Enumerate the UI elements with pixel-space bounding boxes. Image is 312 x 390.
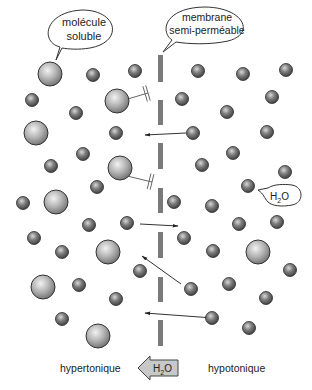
water-molecule [223,278,236,291]
water-molecule [284,264,297,277]
molecules [17,62,297,348]
water-molecule [196,159,209,172]
water-molecule [271,216,284,229]
passing-arrow [140,224,178,226]
membrane-callout: membrane semi-perméable [163,7,245,52]
water-molecule [91,181,104,194]
osmosis-diagram: molécule soluble membrane semi-perméable… [0,0,312,390]
water-molecule [77,148,90,161]
hypertonic-label: hypertonique [60,362,121,374]
water-molecule [243,322,256,335]
solute-callout: molécule soluble [48,10,112,60]
water-molecule [279,166,292,179]
water-molecule [207,245,220,258]
water-callout: H2O [258,184,301,206]
membrane-callout-line2: semi-perméable [169,24,244,36]
membrane-segment [158,232,163,258]
water-molecule [129,65,142,78]
membrane-segment [158,143,163,169]
membrane [158,55,163,346]
water-molecule [192,65,205,78]
water-molecule [233,218,246,231]
solute-molecule [246,240,270,264]
water-molecule [206,312,219,325]
water-molecule [110,127,123,140]
water-molecule [206,200,219,213]
water-molecule [28,232,41,245]
solute-callout-line1: molécule [62,16,106,28]
solute-molecule [38,62,62,86]
water-molecule [227,147,240,160]
solute-molecule [108,156,132,180]
water-molecule [73,279,86,292]
water-molecule [176,93,189,106]
solute-molecule [96,240,120,264]
solute-molecule [86,324,110,348]
passing-arrow [145,313,213,318]
water-molecule [261,126,274,139]
water-molecule [266,91,279,104]
membrane-segment [158,277,163,302]
water-molecule [110,293,123,306]
passing-arrow [145,133,186,135]
solute-molecule [44,190,68,214]
water-molecule [45,160,58,173]
water-molecule [187,127,200,140]
water-molecule [83,219,96,232]
water-flow-arrow: H2O [138,356,178,380]
water-molecule [121,217,134,230]
water-molecule [17,197,30,210]
membrane-segment [158,100,163,125]
solute-molecule [31,275,55,299]
water-molecule [70,107,83,120]
water-molecule [280,64,293,77]
water-molecule [178,232,191,245]
membrane-callout-line1: membrane [182,11,232,23]
water-molecule [237,68,250,81]
water-molecule [87,69,100,82]
water-molecule [168,196,181,209]
water-molecule [260,292,273,305]
membrane-segment [158,188,163,213]
membrane-segment [158,320,163,346]
water-molecule [185,283,198,296]
solute-molecule [105,89,129,113]
hypotonic-label: hypotonique [208,362,265,374]
solute-molecule [24,121,48,145]
water-molecule [221,106,234,119]
water-molecule [26,94,39,107]
water-molecule [134,265,147,278]
molecule-paths [121,85,213,318]
solute-callout-line2: soluble [67,30,102,42]
water-molecule [242,180,255,193]
membrane-segment [158,55,163,82]
water-molecule [56,313,69,326]
water-molecule [56,246,69,259]
